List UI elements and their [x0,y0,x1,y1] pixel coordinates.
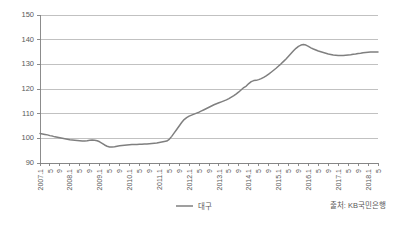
y-tick-label: 140 [21,35,34,44]
x-tick-label: 9 [176,169,183,173]
y-axis-tick-labels: 15014013012011010090 [21,10,34,167]
y-tick-label: 130 [21,59,34,68]
x-tick-label: 9 [235,169,242,173]
x-tick-label: 5 [315,169,322,173]
source-note: 출처: KB국민은행 [330,200,386,210]
x-tick-label: 9 [206,169,213,173]
y-tick-label: 150 [21,10,34,19]
y-tick-label: 120 [21,84,34,93]
x-tick-label: 9 [146,169,153,173]
x-tick-label: 2013.1 [216,169,223,191]
x-tick-label: 2017.1 [335,169,342,191]
x-tick-label: 5 [106,169,113,173]
x-tick-label: 9 [86,169,93,173]
x-tick-label: 2018.1 [365,169,372,191]
x-tick-label: 9 [56,169,63,173]
x-tick-label: 2014.1 [245,169,252,191]
x-tick-label: 5 [285,169,292,173]
x-tick-label: 5 [136,169,143,173]
x-tick-label: 5 [47,169,54,173]
x-tick-label: 5 [196,169,203,173]
y-tick-label: 90 [26,158,34,167]
legend-label-daegu: 대구 [198,202,212,211]
x-tick-label: 5 [76,169,83,173]
x-tick-label: 5 [255,169,262,173]
chart-container: 15014013012011010090 2007.1592008.159200… [0,0,400,230]
x-tick-label: 2007.1 [37,169,44,191]
y-tick-label: 100 [21,133,34,142]
data-series-daegu [40,45,378,147]
x-tick-label: 5 [345,169,352,173]
x-tick-label: 5 [375,169,382,173]
x-tick-label: 2015.1 [275,169,282,191]
x-tick-label: 5 [225,169,232,173]
x-tick-label: 2016.1 [305,169,312,191]
plot-area: 15014013012011010090 2007.1592008.159200… [0,0,400,230]
legend: 대구 [176,202,212,211]
x-tick-label: 2010.1 [126,169,133,191]
x-tick-label: 9 [325,169,332,173]
x-tick-label: 2012.1 [186,169,193,191]
x-tick-label: 2008.1 [66,169,73,191]
x-tick-label: 9 [355,169,362,173]
x-axis-tick-labels: 2007.1592008.1592009.1592010.1592011.159… [37,163,382,190]
x-tick-label: 9 [295,169,302,173]
x-tick-label: 9 [265,169,272,173]
x-tick-label: 2011.1 [156,169,163,190]
x-tick-label: 5 [166,169,173,173]
x-tick-label: 9 [116,169,123,173]
line-chart-svg: 15014013012011010090 2007.1592008.159200… [0,0,400,230]
series-line-daegu [40,45,378,147]
y-tick-label: 110 [22,109,34,118]
source-label: 출처: KB국민은행 [330,200,386,210]
x-tick-label: 2009.1 [96,169,103,191]
